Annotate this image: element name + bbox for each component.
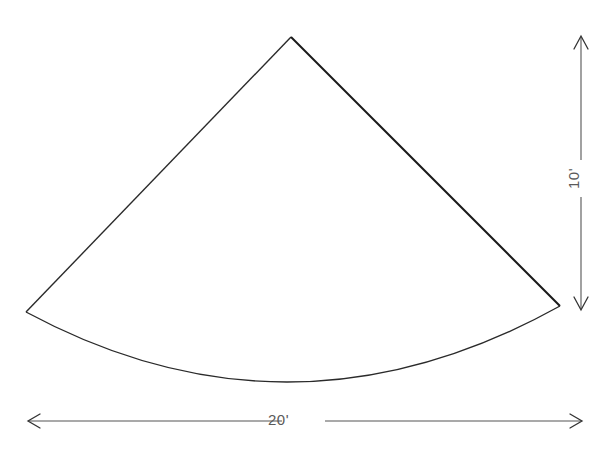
- width-dimension-label: 20': [268, 412, 289, 427]
- height-dimension-label: 10': [566, 168, 581, 189]
- sector-left-edge: [26, 37, 291, 312]
- sector-shape: [26, 37, 560, 382]
- sector-diagram: [0, 0, 612, 452]
- sector-arc: [26, 306, 560, 382]
- sector-right-edge: [291, 37, 560, 306]
- width-dimension: [28, 414, 582, 428]
